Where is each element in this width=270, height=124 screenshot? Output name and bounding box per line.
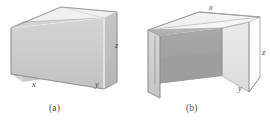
figure-a-caption: (a) [49, 103, 60, 113]
figure-container: x y z x y z (a) (b) [0, 0, 270, 124]
figure-a-label-z: z [115, 40, 118, 50]
figure-a-label-x: x [32, 79, 36, 89]
figure-a-front-right-face [104, 12, 117, 89]
figure-b-outline-right-bottom [249, 77, 260, 92]
figure-b-label-y: y [238, 83, 242, 93]
figure-b-right-side-panel [222, 22, 249, 92]
figure-b-label-x: x [209, 2, 213, 12]
figure-b-left-side-panel [148, 30, 160, 98]
figure-a-label-y: y [95, 79, 99, 89]
geometry-figure-svg [0, 0, 270, 124]
figure-a-shape [11, 7, 117, 89]
figure-b-caption: (b) [186, 103, 198, 113]
figure-b-shape [148, 12, 260, 98]
figure-b-label-z: z [262, 47, 265, 57]
